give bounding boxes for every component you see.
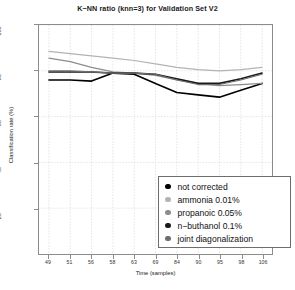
- legend-item[interactable]: not corrected: [159, 180, 290, 193]
- x-tick-label: 58: [102, 259, 124, 265]
- y-tick-label: 40: [0, 162, 2, 178]
- legend-item[interactable]: ammonia 0.01%: [159, 193, 290, 206]
- legend-item-label: not corrected: [178, 182, 228, 192]
- x-tick-label: 106: [252, 259, 274, 265]
- y-tick-label: 100: [0, 23, 2, 39]
- legend-item[interactable]: joint diagonalization: [159, 232, 290, 245]
- page-title: K−NN ratio (knn=3) for Validation Set V2: [0, 4, 295, 13]
- legend-marker-icon: [165, 210, 171, 216]
- legend-marker-icon: [165, 184, 171, 190]
- y-axis-title: Classification rate (%): [8, 100, 14, 170]
- legend-marker-icon: [165, 236, 171, 242]
- y-tick-label: 80: [0, 69, 2, 85]
- legend-item-label: propanoic 0.05%: [178, 208, 243, 218]
- legend-item-label: ammonia 0.01%: [178, 195, 240, 205]
- legend-marker-icon: [165, 197, 171, 203]
- x-tick-label: 56: [80, 259, 102, 265]
- legend[interactable]: not correctedammonia 0.01%propanoic 0.05…: [158, 176, 291, 248]
- x-tick-label: 69: [145, 259, 167, 265]
- x-tick-label: 51: [59, 259, 81, 265]
- legend-item-label: joint diagonalization: [178, 234, 254, 244]
- y-tick-label: 20: [0, 208, 2, 224]
- x-tick-label: 90: [188, 259, 210, 265]
- series-line: [49, 51, 262, 70]
- x-tick-label: 98: [231, 259, 253, 265]
- x-tick-label: 49: [37, 259, 59, 265]
- x-tick-label: 84: [166, 259, 188, 265]
- chart-screenshot: K−NN ratio (knn=3) for Validation Set V2…: [0, 0, 295, 290]
- legend-item[interactable]: propanoic 0.05%: [159, 206, 290, 219]
- legend-item[interactable]: n−buthanol 0.1%: [159, 219, 290, 232]
- x-tick-label: 95: [209, 259, 231, 265]
- x-tick-label: 63: [123, 259, 145, 265]
- legend-marker-icon: [165, 223, 171, 229]
- y-tick-label: 60: [0, 115, 2, 131]
- series-line: [49, 71, 262, 85]
- x-axis-title: Time (samples): [38, 270, 273, 276]
- legend-item-label: n−buthanol 0.1%: [178, 221, 243, 231]
